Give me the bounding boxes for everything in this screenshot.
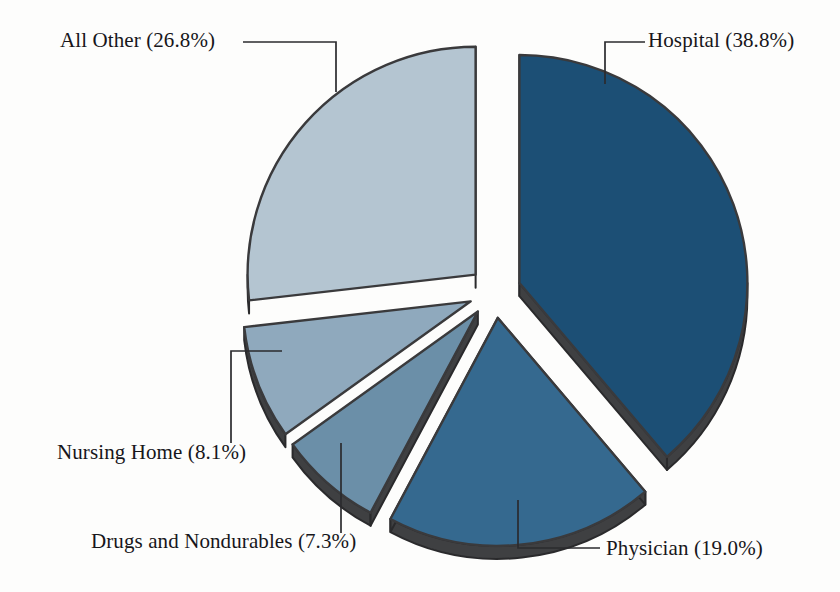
- pie-chart-page: All Other (26.8%) Hospital (38.8%) Physi…: [0, 0, 840, 592]
- leader-line-all-other: [243, 42, 336, 92]
- pie-label-nursing-home: Nursing Home (8.1%): [57, 440, 246, 465]
- pie-label-physician: Physician (19.0%): [606, 536, 763, 561]
- pie-chart-graphic: [0, 0, 840, 592]
- pie-label-drugs-and-nondurables: Drugs and Nondurables (7.3%): [91, 529, 356, 554]
- slice-all-other[interactable]: [248, 47, 476, 301]
- pie-label-hospital: Hospital (38.8%): [648, 28, 794, 53]
- pie-label-all-other: All Other (26.8%): [60, 28, 215, 53]
- slice-faces: [244, 47, 747, 546]
